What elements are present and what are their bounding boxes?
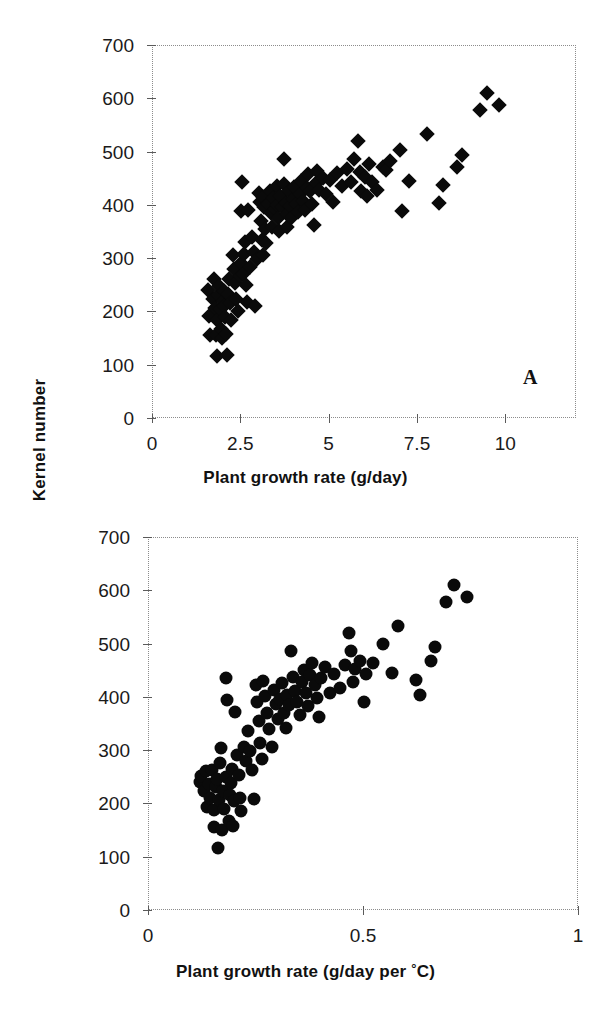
data-point: [472, 102, 488, 118]
data-point: [461, 590, 474, 603]
y-tick-label: 500: [74, 143, 134, 162]
data-point: [347, 675, 360, 688]
data-point: [439, 595, 452, 608]
y-tick-label: 300: [70, 741, 130, 760]
x-tick-mark: [240, 414, 241, 423]
y-tick-mark: [143, 697, 152, 698]
y-tick-mark: [143, 590, 152, 591]
y-tick-mark: [143, 644, 152, 645]
y-tick-mark: [147, 152, 156, 153]
x-axis-title-b-suffix: C): [417, 962, 435, 981]
data-point: [220, 672, 233, 685]
plot-frame-a: [152, 45, 576, 418]
x-tick-label: 10: [475, 434, 535, 453]
data-point: [327, 668, 340, 681]
x-tick-mark: [505, 414, 506, 423]
plot-area-a: [153, 46, 575, 417]
panel-tag-a: A: [523, 366, 537, 389]
data-point: [409, 673, 422, 686]
data-point: [310, 691, 323, 704]
x-tick-mark: [152, 414, 153, 423]
x-tick-label: 0.5: [333, 926, 393, 945]
y-tick-label: 700: [74, 36, 134, 55]
data-point: [401, 173, 417, 189]
data-point: [233, 768, 246, 781]
y-tick-mark: [147, 258, 156, 259]
y-tick-label: 0: [74, 409, 134, 428]
data-point: [392, 619, 405, 632]
data-point: [255, 752, 268, 765]
y-tick-mark: [147, 205, 156, 206]
data-point: [419, 126, 435, 142]
data-point: [248, 793, 261, 806]
y-tick-label: 700: [70, 528, 130, 547]
data-point: [279, 721, 292, 734]
data-point: [394, 203, 410, 219]
data-point: [284, 645, 297, 658]
x-axis-title-b: Plant growth rate (g/day per °C): [0, 961, 611, 982]
data-point: [431, 195, 447, 211]
data-point: [315, 672, 328, 685]
data-point: [428, 641, 441, 654]
x-tick-mark: [329, 414, 330, 423]
data-point: [435, 177, 451, 193]
x-axis-title-a: Plant growth rate (g/day): [0, 468, 611, 488]
x-tick-label: 1: [548, 926, 608, 945]
plot-area-b: [149, 538, 577, 909]
x-axis-title-b-prefix: Plant growth rate (g/day per: [176, 962, 411, 981]
data-point: [234, 792, 247, 805]
x-tick-label: 0: [122, 434, 182, 453]
data-point: [424, 654, 437, 667]
data-point: [219, 347, 235, 363]
data-point: [246, 764, 259, 777]
y-tick-label: 600: [70, 581, 130, 600]
data-point: [448, 579, 461, 592]
data-point: [479, 86, 495, 102]
data-point: [229, 705, 242, 718]
data-point: [360, 667, 373, 680]
plot-frame-b: [148, 537, 578, 910]
data-point: [350, 134, 366, 150]
x-tick-mark: [148, 906, 149, 915]
y-tick-label: 200: [70, 794, 130, 813]
data-point: [342, 627, 355, 640]
scatter-figure: Kernel number 010020030040050060070002.5…: [0, 0, 611, 1029]
data-point: [393, 143, 409, 159]
data-point: [306, 656, 319, 669]
data-point: [377, 637, 390, 650]
x-tick-mark: [578, 906, 579, 915]
y-tick-mark: [147, 98, 156, 99]
data-point: [241, 724, 254, 737]
data-point: [213, 757, 226, 770]
y-tick-mark: [143, 750, 152, 751]
y-tick-label: 100: [70, 848, 130, 867]
x-tick-label: 2.5: [210, 434, 270, 453]
y-tick-label: 400: [74, 196, 134, 215]
y-tick-label: 300: [74, 249, 134, 268]
x-tick-label: 0: [118, 926, 178, 945]
y-tick-mark: [147, 311, 156, 312]
panel-a: 010020030040050060070002.557.510 Plant g…: [0, 0, 611, 500]
y-tick-label: 0: [70, 901, 130, 920]
x-tick-label: 5: [299, 434, 359, 453]
y-tick-mark: [147, 365, 156, 366]
y-tick-label: 600: [74, 89, 134, 108]
y-tick-label: 200: [74, 302, 134, 321]
data-point: [221, 693, 234, 706]
data-point: [227, 819, 240, 832]
data-point: [276, 152, 292, 168]
y-tick-mark: [147, 45, 156, 46]
x-tick-mark: [417, 414, 418, 423]
x-tick-mark: [363, 906, 364, 915]
y-tick-label: 500: [70, 635, 130, 654]
data-point: [353, 654, 366, 667]
y-tick-mark: [143, 857, 152, 858]
data-point: [491, 97, 507, 113]
data-point: [306, 217, 322, 233]
data-point: [358, 696, 371, 709]
data-point: [385, 666, 398, 679]
data-point: [211, 842, 224, 855]
data-point: [215, 741, 228, 754]
panel-b: 010020030040050060070000.51 Plant growth…: [0, 500, 611, 1029]
data-point: [413, 689, 426, 702]
